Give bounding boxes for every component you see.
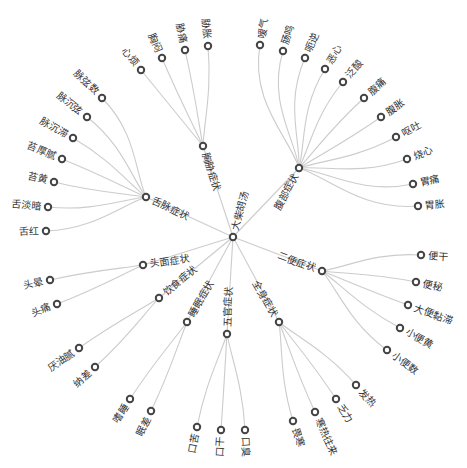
node-circle-icon[interactable] [413,279,419,285]
branch-node-9[interactable]: 二便症状 [276,249,325,274]
node-circle-icon[interactable] [159,55,165,61]
leaf-node-8-1[interactable]: 畏寒 [290,418,307,449]
leaf-node-2-1[interactable]: 嗳气 [255,17,270,48]
node-circle-icon[interactable] [156,295,162,301]
radial-tree-diagram: 胸胁症状心烦胸闷胁痛胁胀腹部症状嗳气肠鸣呃逆恶心泛酸腹痛腹胀呕吐烧心胃痛胃胀舌脉… [0,0,467,468]
node-circle-icon[interactable] [182,47,188,53]
node-circle-icon[interactable] [378,114,384,120]
branch-node-3[interactable]: 舌脉症状 [143,194,192,222]
leaf-node-8-3[interactable]: 乏力 [333,396,356,425]
node-circle-icon[interactable] [70,135,76,141]
node-circle-icon[interactable] [296,165,302,171]
node-circle-icon[interactable] [302,55,308,61]
leaf-node-2-10[interactable]: 胃痛 [410,172,441,188]
node-circle-icon[interactable] [218,427,224,433]
leaf-node-9-1[interactable]: 便干 [418,249,449,262]
node-circle-icon[interactable] [205,43,211,49]
link-branch-2-leaf-2 [278,51,299,168]
node-circle-icon[interactable] [322,66,328,72]
leaf-node-3-6[interactable]: 舌淡暗 [11,197,52,212]
leaf-node-1-3[interactable]: 胁痛 [174,22,190,53]
leaf-node-9-2[interactable]: 便秘 [413,277,444,293]
node-circle-icon[interactable] [200,143,206,149]
node-circle-icon[interactable] [43,228,49,234]
node-circle-icon[interactable] [84,114,90,120]
leaf-node-2-6[interactable]: 腹痛 [361,75,388,101]
leaf-node-1-1[interactable]: 心烦 [120,45,144,73]
node-circle-icon[interactable] [140,262,146,268]
leaf-node-9-4[interactable]: 小便黄 [397,325,436,350]
node-circle-icon[interactable] [319,268,325,274]
branch-node-1[interactable]: 胸胁症状 [200,143,224,193]
node-circle-icon[interactable] [51,179,57,185]
leaf-node-2-4[interactable]: 恶心 [322,43,344,72]
leaf-node-7-2[interactable]: 口干 [214,427,226,458]
node-circle-icon[interactable] [184,319,190,325]
branch-node-2[interactable]: 腹部症状 [271,165,302,212]
node-circle-icon[interactable] [404,156,410,162]
node-circle-icon[interactable] [99,95,105,101]
node-circle-icon[interactable] [393,134,399,140]
leaf-node-4-1[interactable]: 头晕 [22,276,53,291]
leaf-node-7-1[interactable]: 口苦 [185,424,201,455]
node-circle-icon[interactable] [59,156,65,162]
node-circle-icon[interactable] [45,204,51,210]
node-circle-icon[interactable] [47,277,53,283]
leaf-node-3-4[interactable]: 苔厚腻 [26,139,66,162]
branch-node-5[interactable]: 饮食症状 [156,263,199,301]
leaf-node-3-1[interactable]: 脉弦数 [72,67,105,101]
node-circle-icon[interactable] [418,252,424,258]
node-circle-icon[interactable] [276,319,282,325]
leaf-node-2-11[interactable]: 胃胀 [415,198,446,211]
branch-node-8[interactable]: 全身症状 [251,278,282,325]
node-circle-icon[interactable] [353,382,359,388]
node-circle-icon[interactable] [143,194,149,200]
leaf-node-2-5[interactable]: 泛酸 [340,57,365,85]
branch-node-6[interactable]: 睡眠症状 [184,278,215,325]
branch-node-4[interactable]: 头面症状 [140,252,191,269]
node-circle-icon[interactable] [127,396,133,402]
leaf-node-1-2[interactable]: 胸闷 [146,31,165,62]
leaf-node-2-3[interactable]: 呃逆 [302,31,321,62]
node-circle-icon[interactable] [54,301,60,307]
node-circle-icon[interactable] [405,302,411,308]
leaf-node-1-4[interactable]: 胁胀 [200,19,214,50]
node-circle-icon[interactable] [230,234,236,240]
leaf-node-2-8[interactable]: 呕吐 [393,119,423,140]
leaf-node-3-5[interactable]: 苔黄 [26,169,57,185]
node-circle-icon[interactable] [92,364,98,370]
leaf-node-3-7[interactable]: 舌红 [19,225,49,238]
leaf-node-2-7[interactable]: 腹胀 [378,96,406,120]
node-circle-icon[interactable] [312,409,318,415]
node-circle-icon[interactable] [361,95,367,101]
node-circle-icon[interactable] [242,427,248,433]
node-circle-icon[interactable] [76,345,82,351]
node-circle-icon[interactable] [257,42,263,48]
leaf-node-7-3[interactable]: 口臭 [240,427,253,457]
leaf-node-2-2[interactable]: 肠鸣 [279,23,296,54]
node-circle-icon[interactable] [397,325,403,331]
leaf-node-8-2[interactable]: 寒热往来 [312,409,341,457]
node-circle-icon[interactable] [194,424,200,430]
node-circle-icon[interactable] [340,79,346,85]
leaf-node-6-1[interactable]: 嗜睡 [110,396,133,425]
node-circle-icon[interactable] [415,203,421,209]
leaf-node-3-3[interactable]: 脉沉滞 [38,114,76,141]
node-circle-icon[interactable] [290,418,296,424]
node-circle-icon[interactable] [384,347,390,353]
node-circle-icon[interactable] [333,396,339,402]
leaf-node-9-5[interactable]: 小便数 [384,347,421,376]
node-circle-icon[interactable] [410,181,416,187]
leaf-node-3-2[interactable]: 脉沉弦 [54,89,90,120]
node-circle-icon[interactable] [148,408,154,414]
leaf-node-6-2[interactable]: 眠差 [133,408,154,438]
node-circle-icon[interactable] [138,67,144,73]
leaf-node-5-2[interactable]: 纳差 [71,364,99,389]
leaf-node-8-4[interactable]: 发热 [353,382,379,409]
leaf-node-9-3[interactable]: 大便黏滞 [405,301,455,326]
node-circle-icon[interactable] [280,48,286,54]
leaf-node-2-9[interactable]: 烧心 [404,144,434,163]
node-circle-icon[interactable] [224,331,230,337]
leaf-node-4-2[interactable]: 头痛 [29,300,60,318]
leaf-node-5-1[interactable]: 厌油腻 [45,345,82,374]
